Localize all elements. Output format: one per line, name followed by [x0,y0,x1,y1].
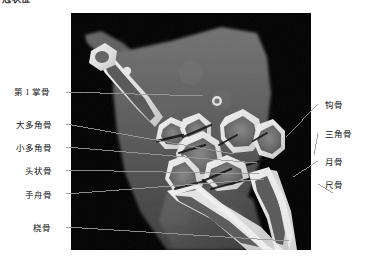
annotation-label-first-metacarpal: 第 1 掌骨 [14,87,50,97]
leader-line [314,133,318,155]
wrist-ct-coronal-image [71,13,311,250]
annotation-label-trapezoid: 小多角骨 [16,143,52,153]
annotation-label-capitate: 头状骨 [25,166,52,176]
ct-scan-graphic [71,13,311,250]
annotation-label-scaphoid: 手舟骨 [25,190,52,200]
figure-heading: 冠状位 [2,0,31,5]
annotation-label-radius: 桡骨 [33,223,51,233]
annotation-label-triquetrum: 三角骨 [325,129,352,139]
annotation-label-hamate: 钩骨 [325,100,343,110]
annotation-label-lunate: 月骨 [325,157,343,167]
annotation-label-ulna: 尺骨 [325,180,343,190]
annotation-label-trapezium: 大多角骨 [16,120,52,130]
